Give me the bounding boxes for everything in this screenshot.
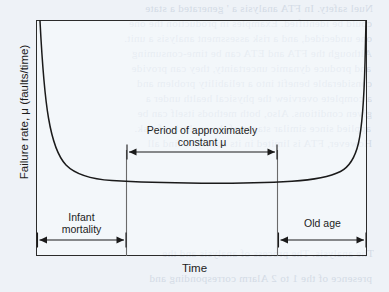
constant-period-label: Period of approximately constant μ	[127, 124, 277, 148]
old-age-arrow	[279, 233, 367, 248]
failure-rate-curve	[40, 21, 366, 183]
x-axis-title: Time	[0, 262, 389, 274]
old-age-label: Old age	[278, 217, 367, 229]
infant-mortality-label: Infant mortality	[37, 211, 126, 235]
bathtub-curve-figure: Failure rate, μ (faults/time)	[0, 0, 389, 292]
